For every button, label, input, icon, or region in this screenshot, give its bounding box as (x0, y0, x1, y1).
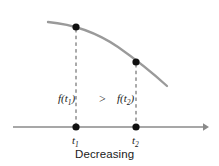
function-value-label-t1-head: f(t (58, 92, 68, 104)
function-value-label-t2-tail: ) (131, 92, 135, 104)
axis-point-t2 (132, 123, 139, 130)
curve-point-t2 (132, 58, 139, 65)
function-value-label-t1: f(t1) (58, 93, 75, 104)
function-value-label-t2-head: f(t (117, 92, 127, 104)
figure-caption: Decreasing (75, 149, 134, 161)
function-value-label-t2-subscript: 2 (127, 98, 131, 107)
decreasing-function-figure: f(t1) > f(t2) t1 t2 Decreasing (0, 0, 219, 166)
function-value-label-t1-subscript: 1 (68, 98, 72, 107)
axis-arrow-icon (203, 123, 209, 131)
greater-than-symbol: > (99, 93, 106, 105)
function-value-label-t2: f(t2) (117, 93, 134, 104)
tick-label-t2: t2 (132, 135, 139, 146)
decreasing-curve (48, 22, 167, 86)
function-value-label-t1-tail: ) (72, 92, 76, 104)
figure-canvas (0, 0, 219, 166)
tick-label-t1: t1 (72, 135, 79, 146)
curve-point-t1 (72, 23, 79, 30)
tick-label-t2-subscript: 2 (135, 140, 139, 149)
axis-point-t1 (72, 123, 79, 130)
